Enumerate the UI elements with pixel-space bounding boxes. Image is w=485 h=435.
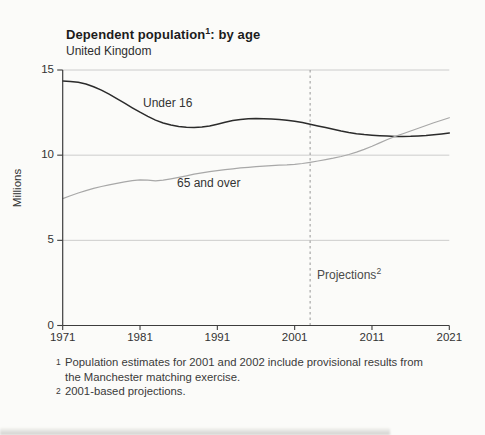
series-label-under-16: Under 16 bbox=[143, 96, 192, 110]
y-tick-label: 10 bbox=[26, 148, 54, 160]
y-tick-label: 15 bbox=[26, 63, 54, 75]
x-tick-label: 1981 bbox=[118, 331, 162, 343]
footnote-2-line1: 2001-based projections. bbox=[65, 385, 186, 397]
chart-figure: Dependent population1: by age United Kin… bbox=[0, 0, 485, 435]
footnotes: 1 Population estimates for 2001 and 2002… bbox=[56, 355, 428, 399]
footnote-1-marker: 1 bbox=[56, 355, 61, 370]
footnote-2: 2 2001-based projections. bbox=[56, 384, 428, 399]
projections-label: Projections2 bbox=[317, 266, 381, 282]
scan-artifact bbox=[0, 428, 390, 435]
series-label-65-and-over: 65 and over bbox=[177, 176, 240, 190]
footnote-2-marker: 2 bbox=[56, 384, 61, 399]
x-tick-label: 1991 bbox=[195, 331, 239, 343]
footnote-1: 1 Population estimates for 2001 and 2002… bbox=[56, 355, 428, 384]
y-tick-label: 5 bbox=[26, 233, 54, 245]
footnote-1-line2: the Manchester matching exercise. bbox=[65, 371, 240, 383]
under-16-line bbox=[63, 81, 450, 136]
footnote-1-line1: Population estimates for 2001 and 2002 i… bbox=[65, 356, 423, 368]
y-tick-label: 0 bbox=[26, 319, 54, 331]
x-tick-label: 2021 bbox=[427, 331, 471, 343]
x-tick-label: 2011 bbox=[350, 331, 394, 343]
projections-footnote-marker: 2 bbox=[376, 266, 381, 276]
65-and-over-line bbox=[63, 118, 450, 199]
x-tick-label: 1971 bbox=[41, 331, 85, 343]
projections-label-text: Projections bbox=[317, 268, 376, 282]
x-tick-label: 2001 bbox=[273, 331, 317, 343]
